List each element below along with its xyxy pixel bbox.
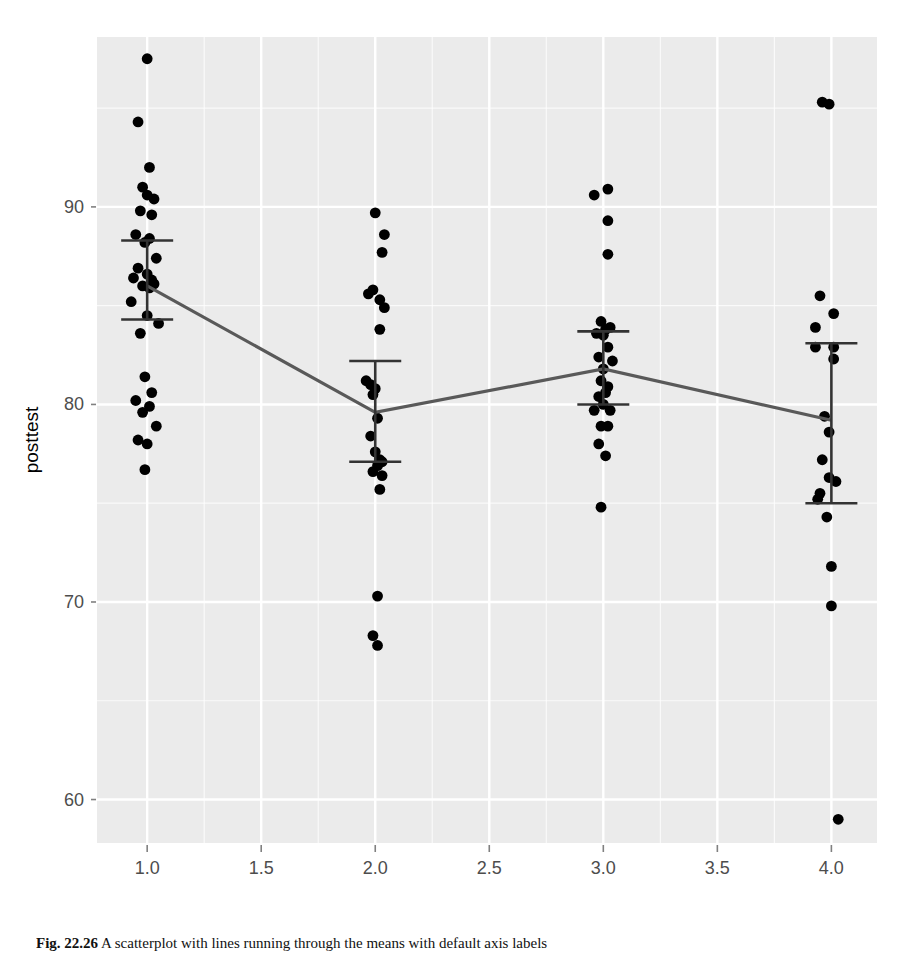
data-point — [370, 207, 381, 218]
data-point — [589, 190, 600, 201]
data-point — [810, 322, 821, 333]
y-axis-title: posttest — [21, 406, 42, 473]
plot-panel-background — [97, 37, 877, 843]
x-axis-tick-label: 3.5 — [705, 858, 730, 878]
data-point — [602, 184, 613, 195]
x-axis-tick-label: 4.0 — [819, 858, 844, 878]
data-point — [815, 290, 826, 301]
y-axis-tick-label: 90 — [64, 197, 84, 217]
data-point — [139, 371, 150, 382]
y-axis-tick-label: 60 — [64, 790, 84, 810]
data-point — [139, 237, 150, 248]
data-point — [368, 389, 379, 400]
data-point — [144, 162, 155, 173]
x-axis-tick-label: 1.0 — [135, 858, 160, 878]
data-point — [602, 249, 613, 260]
data-point — [149, 194, 160, 205]
data-point — [133, 117, 144, 128]
data-point — [142, 53, 153, 64]
data-point — [833, 814, 844, 825]
data-point — [607, 356, 618, 367]
data-point — [142, 439, 153, 450]
data-point — [372, 640, 383, 651]
data-point — [824, 427, 835, 438]
data-point — [126, 296, 137, 307]
data-point — [146, 209, 157, 220]
caption-label: Fig. 22.26 — [36, 935, 98, 951]
data-point — [600, 450, 611, 461]
data-point — [133, 263, 144, 274]
data-point — [817, 454, 828, 465]
data-point — [593, 439, 604, 450]
data-point — [130, 395, 141, 406]
data-point — [596, 502, 607, 513]
data-point — [828, 354, 839, 365]
data-point — [821, 512, 832, 523]
data-point — [826, 561, 837, 572]
data-point — [824, 99, 835, 110]
x-axis-tick-label: 3.0 — [591, 858, 616, 878]
data-point — [828, 308, 839, 319]
data-point — [368, 284, 379, 295]
data-point — [379, 302, 390, 313]
figure-caption: Fig. 22.26 A scatterplot with lines runn… — [36, 934, 882, 953]
data-point — [826, 601, 837, 612]
data-point — [374, 484, 385, 495]
data-point — [151, 253, 162, 264]
data-point — [377, 470, 388, 481]
data-point — [372, 413, 383, 424]
data-point — [130, 229, 141, 240]
data-point — [374, 324, 385, 335]
caption-text: A scatterplot with lines running through… — [101, 935, 547, 951]
data-point — [135, 205, 146, 216]
data-point — [368, 630, 379, 641]
data-point — [379, 229, 390, 240]
data-point — [602, 421, 613, 432]
data-point — [128, 273, 139, 284]
y-axis-tick-label: 80 — [64, 394, 84, 414]
data-point — [137, 407, 148, 418]
data-point — [146, 387, 157, 398]
data-point — [151, 421, 162, 432]
y-axis-tick-label: 70 — [64, 592, 84, 612]
data-point — [377, 247, 388, 258]
data-point — [372, 591, 383, 602]
plot-area: 607080901.01.52.02.53.03.54.0as.numeric(… — [0, 0, 912, 880]
data-point — [605, 405, 616, 416]
data-point — [135, 328, 146, 339]
scatter-plot-svg: 607080901.01.52.02.53.03.54.0as.numeric(… — [0, 0, 912, 880]
x-axis-tick-label: 2.5 — [477, 858, 502, 878]
data-point — [139, 464, 150, 475]
data-point — [589, 405, 600, 416]
data-point — [602, 215, 613, 226]
x-axis-tick-label: 1.5 — [249, 858, 274, 878]
x-axis-tick-label: 2.0 — [363, 858, 388, 878]
